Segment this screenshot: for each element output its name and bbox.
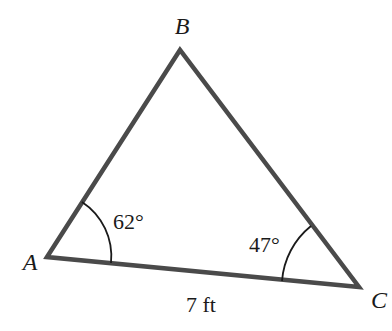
vertex-label-b: B bbox=[175, 13, 190, 39]
angle-arc-c bbox=[282, 226, 311, 281]
vertex-label-c: C bbox=[371, 287, 388, 313]
triangle-abc bbox=[47, 50, 359, 287]
angle-arc-a bbox=[82, 202, 111, 263]
vertex-label-a: A bbox=[21, 249, 38, 275]
side-label-ac: 7 ft bbox=[186, 292, 216, 317]
angle-label-c: 47° bbox=[249, 232, 280, 257]
triangle-diagram: B A C 62° 47° 7 ft bbox=[0, 0, 392, 331]
angle-label-a: 62° bbox=[113, 209, 144, 234]
